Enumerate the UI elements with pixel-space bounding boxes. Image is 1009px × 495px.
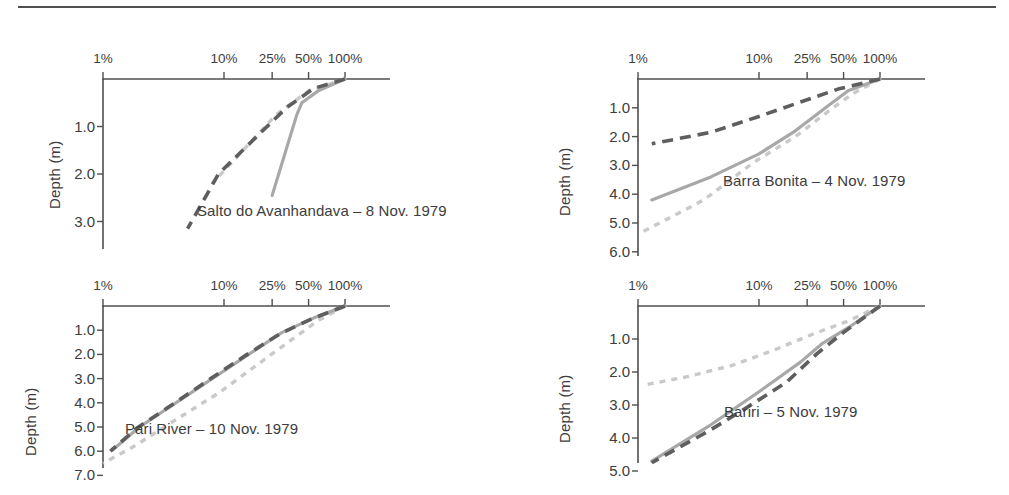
panel-4-yaxis: 1.02.03.04.05.0 (609, 306, 638, 479)
panel-4-xtick-25: 25% (794, 278, 821, 293)
panel-2-series-light-dotted (643, 79, 880, 232)
panel-salto-do-avanhandava: Depth (m) 1%10%25%50%100% 1.02.03.0 Salt… (0, 24, 420, 234)
panel-1-xaxis: 1%10%25%50%100% (93, 51, 390, 79)
panel-3-ytick-6.0: 6.0 (74, 442, 95, 459)
panel-3-xtick-25: 25% (259, 278, 286, 293)
panel-2-series-dark-dashed (652, 79, 880, 144)
panel-2-plot: 1%10%25%50%100% 1.02.03.04.05.06.0 (535, 24, 955, 244)
panel-4-series-light-dotted (643, 306, 880, 385)
panel-3-ylabel: Depth (m) (22, 388, 39, 456)
panel-4-xtick-1: 1% (628, 278, 648, 293)
panel-1-ytick-1.0: 1.0 (74, 118, 95, 135)
panel-2-xaxis: 1%10%25%50%100% (628, 51, 925, 79)
panel-3-xaxis: 1%10%25%50%100% (93, 278, 390, 306)
panel-1-ylabel: Depth (m) (46, 141, 63, 209)
panel-4-ytick-5.0: 5.0 (609, 462, 630, 479)
panel-2-xtick-10: 10% (745, 51, 772, 66)
panel-4-ytick-2.0: 2.0 (609, 363, 630, 380)
panel-2-ylabel: Depth (m) (556, 148, 573, 216)
panel-3-plot: 1%10%25%50%100% 1.02.03.04.05.06.07.0 (0, 253, 420, 473)
panel-4-xaxis: 1%10%25%50%100% (628, 278, 925, 306)
panel-1-ytick-3.0: 3.0 (74, 213, 95, 230)
panel-4-ytick-4.0: 4.0 (609, 429, 630, 446)
panel-1-series-light-dotted (212, 79, 345, 184)
panel-3-xtick-10: 10% (210, 278, 237, 293)
panel-1-yaxis: 1.02.03.0 (74, 79, 103, 249)
panel-2-ytick-1.0: 1.0 (609, 99, 630, 116)
panel-4-xtick-50: 50% (830, 278, 857, 293)
panel-3-xtick-50: 50% (295, 278, 322, 293)
panel-1-caption: Salto do Avanhandava – 8 Nov. 1979 (197, 202, 447, 219)
panel-1-xtick-25: 25% (259, 51, 286, 66)
panel-3-xtick-1: 1% (93, 278, 113, 293)
panel-1-series-solid-gray (272, 79, 345, 195)
panel-barra-bonita: Depth (m) 1%10%25%50%100% 1.02.03.04.05.… (535, 24, 955, 244)
panel-3-yaxis: 1.02.03.04.05.06.07.0 (74, 306, 103, 483)
panel-2-ytick-3.0: 3.0 (609, 156, 630, 173)
panel-4-ylabel: Depth (m) (556, 375, 573, 443)
panel-2-xtick-25: 25% (794, 51, 821, 66)
panel-2-yaxis: 1.02.03.04.05.06.0 (609, 79, 638, 260)
panel-bariri: Depth (m) 1%10%25%50%100% 1.02.03.04.05.… (535, 253, 955, 473)
panel-3-caption: Pari River – 10 Nov. 1979 (125, 420, 298, 437)
panel-pari-river: Depth (m) 1%10%25%50%100% 1.02.03.04.05.… (0, 253, 420, 473)
panel-1-xtick-10: 10% (210, 51, 237, 66)
panel-3-ytick-1.0: 1.0 (74, 321, 95, 338)
panel-1-xtick-50: 50% (295, 51, 322, 66)
panel-2-ytick-5.0: 5.0 (609, 214, 630, 231)
panel-4-ytick-3.0: 3.0 (609, 396, 630, 413)
panel-1-xtick-1: 1% (93, 51, 113, 66)
panel-2-ytick-2.0: 2.0 (609, 128, 630, 145)
panel-1-ytick-2.0: 2.0 (74, 165, 95, 182)
panel-2-series (643, 79, 880, 232)
panel-2-caption: Barra Bonita – 4 Nov. 1979 (723, 172, 905, 189)
panel-4-plot: 1%10%25%50%100% 1.02.03.04.05.0 (535, 253, 955, 473)
figure-root: Depth (m) 1%10%25%50%100% 1.02.03.0 Salt… (0, 0, 1009, 495)
panel-2-ytick-4.0: 4.0 (609, 185, 630, 202)
panel-4-series (643, 306, 880, 463)
panel-3-series (103, 306, 345, 463)
panel-2-xtick-50: 50% (830, 51, 857, 66)
panel-2-xtick-100: 100% (863, 51, 898, 66)
panel-4-caption: Bariri – 5 Nov. 1979 (724, 403, 857, 420)
panel-4-xtick-100: 100% (863, 278, 898, 293)
panel-1-xtick-100: 100% (328, 51, 363, 66)
panel-4-xtick-10: 10% (745, 278, 772, 293)
panel-3-series-light-dotted (103, 306, 345, 463)
panel-4-ytick-1.0: 1.0 (609, 330, 630, 347)
panel-3-ytick-2.0: 2.0 (74, 345, 95, 362)
panel-3-ytick-5.0: 5.0 (74, 418, 95, 435)
top-divider-rule (18, 6, 996, 8)
panel-3-ytick-4.0: 4.0 (74, 394, 95, 411)
panel-2-xtick-1: 1% (628, 51, 648, 66)
panel-3-ytick-3.0: 3.0 (74, 370, 95, 387)
panel-3-ytick-7.0: 7.0 (74, 466, 95, 483)
panel-3-xtick-100: 100% (328, 278, 363, 293)
